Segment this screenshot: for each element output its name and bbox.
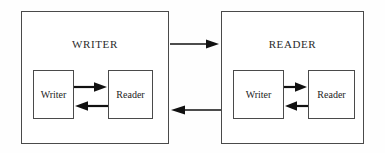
reader-panel-title: READER xyxy=(222,38,363,50)
writer-panel-title: WRITER xyxy=(22,38,168,50)
writer-panel-reader-box: Reader xyxy=(108,70,153,119)
reader-panel-reader-box: Reader xyxy=(308,70,355,119)
writer-to-reader-arrow-icon xyxy=(170,39,220,49)
reader-panel-writer-box: Writer xyxy=(233,70,284,119)
diagram-canvas: WRITER Writer Reader READER Writer Reade… xyxy=(0,0,385,153)
writer-panel-back-arrow-icon xyxy=(74,101,108,111)
writer-panel-writer-box: Writer xyxy=(33,70,74,119)
writer-panel: WRITER Writer Reader xyxy=(21,11,169,144)
reader-to-writer-arrow-icon xyxy=(170,105,221,115)
reader-panel: READER Writer Reader xyxy=(221,11,364,144)
reader-panel-back-arrow-icon xyxy=(284,101,308,111)
reader-panel-forward-arrow-icon xyxy=(284,82,308,92)
writer-panel-forward-arrow-icon xyxy=(74,82,108,92)
